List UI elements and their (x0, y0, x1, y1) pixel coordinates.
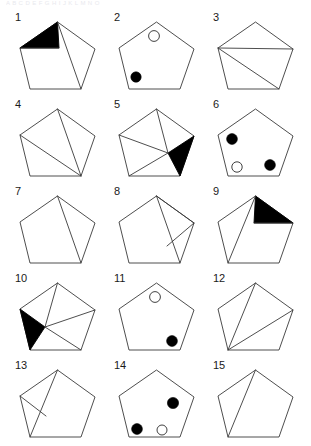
figure-shape-11 (105, 271, 208, 358)
figure-shape-12 (204, 271, 307, 358)
filled-circle-lower-right (265, 160, 276, 171)
figure-shape-6 (204, 97, 307, 184)
open-circle-lower-left (232, 162, 242, 172)
figure-cell-10[interactable]: 10 (6, 271, 109, 358)
shaded-triangle-top-right (254, 196, 293, 223)
figure-shape-2 (105, 10, 208, 97)
filled-circle-upper-right (167, 397, 178, 408)
filled-circle-upper-left (227, 134, 238, 145)
figure-cell-4[interactable]: 4 (6, 97, 109, 184)
open-circle-upper-center (149, 31, 160, 42)
figure-cell-6[interactable]: 6 (204, 97, 307, 184)
filled-circle-lower-right (167, 336, 178, 347)
figure-cell-5[interactable]: 5 (105, 97, 208, 184)
figure-shape-9 (204, 184, 307, 271)
pentagon-outline (218, 370, 293, 437)
pentagon-outline (119, 370, 194, 437)
figure-shape-8 (105, 184, 208, 271)
page-header-faint-text: A B C D E F G H I J K L M N O (6, 0, 196, 7)
figure-shape-10 (6, 271, 109, 358)
figure-shape-1 (6, 10, 109, 97)
figure-shape-5 (105, 97, 208, 184)
pentagon-outline (20, 196, 95, 263)
figure-shape-13 (6, 358, 109, 445)
figure-shape-14 (105, 358, 208, 445)
figure-cell-8[interactable]: 8 (105, 184, 208, 271)
open-circle-upper-center (150, 292, 161, 303)
filled-circle-lower-left (132, 424, 143, 435)
figure-grid: 1 2 3 4 (0, 10, 311, 446)
pentagon-outline (119, 196, 194, 263)
figure-cell-2[interactable]: 2 (105, 10, 208, 97)
figure-shape-7 (6, 184, 109, 271)
figure-shape-3 (204, 10, 307, 97)
worksheet-page: A B C D E F G H I J K L M N O 1 2 3 (0, 0, 311, 446)
figure-cell-7[interactable]: 7 (6, 184, 109, 271)
figure-cell-15[interactable]: 15 (204, 358, 307, 445)
figure-cell-12[interactable]: 12 (204, 271, 307, 358)
figure-shape-4 (6, 97, 109, 184)
pentagon-outline (20, 370, 95, 437)
figure-cell-14[interactable]: 14 (105, 358, 208, 445)
open-circle-bottom-center (157, 425, 167, 435)
figure-cell-11[interactable]: 11 (105, 271, 208, 358)
figure-cell-3[interactable]: 3 (204, 10, 307, 97)
figure-cell-9[interactable]: 9 (204, 184, 307, 271)
figure-shape-15 (204, 358, 307, 445)
filled-circle-lower-left (131, 72, 141, 82)
shaded-triangle (20, 22, 59, 48)
figure-cell-13[interactable]: 13 (6, 358, 109, 445)
figure-cell-1[interactable]: 1 (6, 10, 109, 97)
